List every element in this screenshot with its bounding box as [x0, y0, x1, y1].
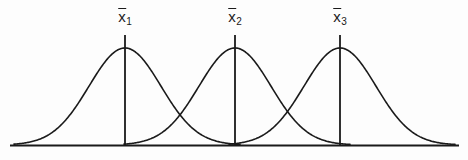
mean-label-3: x3: [333, 8, 347, 27]
overbar-3-icon: [333, 8, 341, 9]
mean-label-1-symbol: x: [118, 8, 126, 25]
normal-curves-figure: x1 x2 x3: [0, 0, 468, 160]
mean-label-3-symbol: x: [333, 8, 341, 25]
mean-label-2: x2: [228, 8, 242, 27]
mean-label-3-subscript: 3: [341, 16, 347, 27]
mean-line-group: [125, 35, 340, 145]
normal-curve-2: [124, 48, 350, 144]
mean-label-1-subscript: 1: [126, 16, 132, 27]
mean-label-2-base: x: [228, 8, 236, 24]
mean-label-3-base: x: [333, 8, 341, 24]
overbar-2-icon: [228, 8, 236, 9]
normal-curve-1: [14, 48, 240, 144]
mean-label-2-symbol: x: [228, 8, 236, 25]
overbar-1-icon: [118, 8, 126, 9]
mean-label-1: x1: [118, 8, 132, 27]
normal-curve-3: [229, 48, 455, 144]
mean-label-2-subscript: 2: [236, 16, 242, 27]
mean-label-1-base: x: [118, 8, 126, 24]
